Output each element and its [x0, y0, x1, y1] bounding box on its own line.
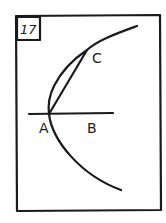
point-label-b: B [87, 120, 97, 136]
segment-ac [49, 50, 87, 114]
figure-number: 17 [20, 22, 37, 37]
line-ab [29, 113, 113, 114]
geometry-diagram: 17 A B C [0, 0, 166, 223]
point-label-a: A [39, 120, 49, 136]
point-label-c: C [92, 50, 102, 66]
